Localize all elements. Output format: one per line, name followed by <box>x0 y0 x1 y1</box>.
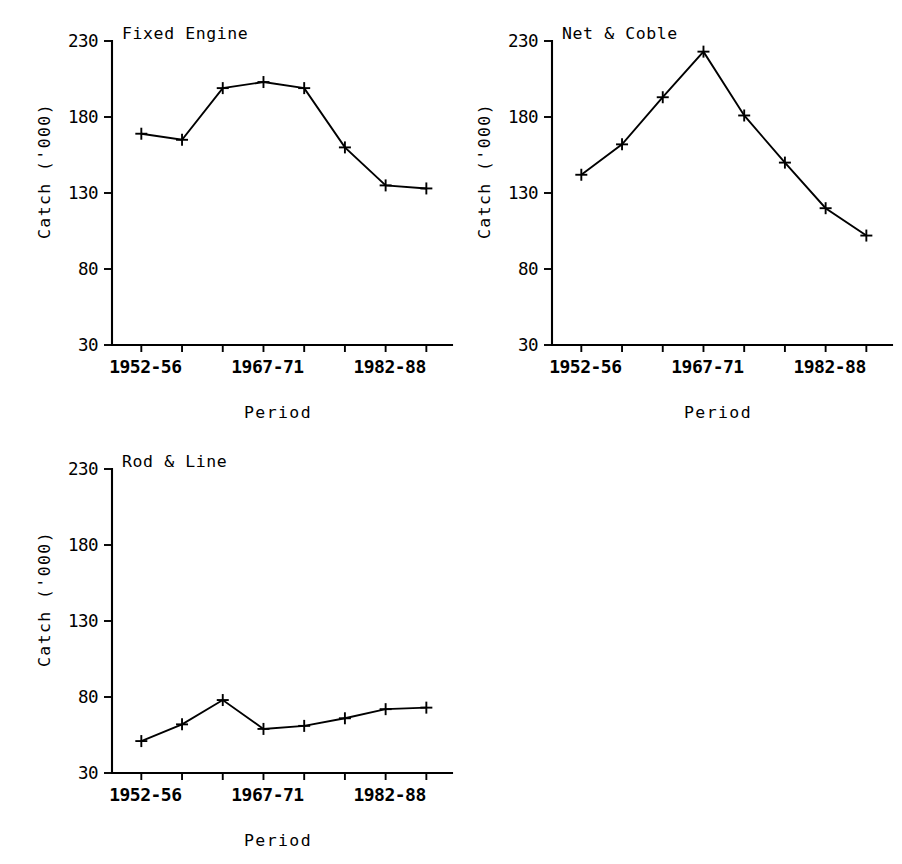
y-axis-title: Catch ('000) <box>35 103 54 239</box>
chart-svg-2: 30801301802301952-561967-711982-88Rod & … <box>0 420 470 850</box>
y-tick-label: 230 <box>68 459 98 479</box>
x-tick-label: 1982-88 <box>353 356 425 377</box>
y-tick-label: 30 <box>78 763 98 783</box>
data-point-marker <box>176 718 188 730</box>
y-tick-label: 180 <box>68 107 98 127</box>
data-point-marker <box>298 82 310 94</box>
data-point-marker <box>860 230 872 242</box>
data-point-marker <box>257 723 269 735</box>
y-axis-title: Catch ('000) <box>475 103 494 239</box>
y-tick-label: 230 <box>508 31 538 51</box>
x-tick-label: 1952-56 <box>109 356 181 377</box>
x-tick-label: 1967-71 <box>231 356 303 377</box>
x-axis-title: Period <box>684 403 752 422</box>
chart-panel-fixed-engine: 30801301802301952-561967-711982-88Fixed … <box>0 0 470 420</box>
y-tick-label: 30 <box>518 335 538 355</box>
chart-svg-1: 30801301802301952-561967-711982-88Net & … <box>440 0 902 420</box>
data-point-marker <box>217 694 229 706</box>
chart-panel-rod-and-line: 30801301802301952-561967-711982-88Rod & … <box>0 420 470 850</box>
panel-title: Rod & Line <box>122 452 227 471</box>
x-tick-label: 1967-71 <box>671 356 743 377</box>
y-axis-title: Catch ('000) <box>35 531 54 667</box>
data-point-marker <box>257 76 269 88</box>
y-tick-label: 80 <box>78 687 98 707</box>
x-tick-label: 1982-88 <box>793 356 865 377</box>
data-point-marker <box>420 702 432 714</box>
y-tick-label: 130 <box>68 611 98 631</box>
x-axis-title: Period <box>244 831 312 850</box>
y-tick-label: 30 <box>78 335 98 355</box>
y-tick-label: 80 <box>518 259 538 279</box>
x-tick-label: 1952-56 <box>109 784 181 805</box>
data-point-marker <box>135 128 147 140</box>
panel-title: Net & Coble <box>562 24 678 43</box>
data-point-marker <box>298 720 310 732</box>
y-tick-label: 230 <box>68 31 98 51</box>
data-point-marker <box>135 735 147 747</box>
panel-title: Fixed Engine <box>122 24 248 43</box>
series-line <box>141 700 426 741</box>
x-tick-label: 1967-71 <box>231 784 303 805</box>
y-tick-label: 130 <box>508 183 538 203</box>
data-point-marker <box>339 712 351 724</box>
y-tick-label: 180 <box>508 107 538 127</box>
y-tick-label: 130 <box>68 183 98 203</box>
chart-svg-0: 30801301802301952-561967-711982-88Fixed … <box>0 0 470 420</box>
data-point-marker <box>380 703 392 715</box>
series-line <box>141 82 426 188</box>
data-point-marker <box>420 182 432 194</box>
x-tick-label: 1952-56 <box>549 356 621 377</box>
y-tick-label: 180 <box>68 535 98 555</box>
y-tick-label: 80 <box>78 259 98 279</box>
chart-panel-net-and-coble: 30801301802301952-561967-711982-88Net & … <box>440 0 902 420</box>
x-tick-label: 1982-88 <box>353 784 425 805</box>
